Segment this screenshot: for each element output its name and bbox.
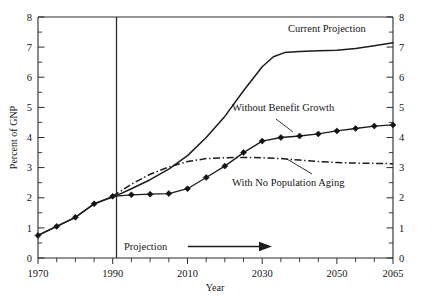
- chart-figure: 1970 1990 2010 2030 2050 2065 0 1 2 3 4 …: [0, 0, 432, 303]
- y-tick-label-right: 7: [399, 42, 404, 53]
- y-axis-right-ticks: [387, 17, 394, 258]
- x-tick-label: 2030: [252, 268, 273, 279]
- y-tick-label: 2: [27, 192, 32, 203]
- y-tick-label-right: 6: [399, 72, 404, 83]
- y-tick-label: 6: [27, 72, 32, 83]
- y-tick-label: 7: [27, 42, 32, 53]
- y-tick-label-right: 5: [399, 102, 404, 113]
- y-axis-right-tick-labels: 0 1 2 3 4 5 6 7 8: [399, 12, 405, 264]
- series-label-without-benefit-growth: Without Benefit Growth: [232, 102, 335, 113]
- y-tick-label: 8: [27, 12, 32, 23]
- x-tick-label: 2050: [326, 268, 347, 279]
- y-tick-label: 1: [27, 223, 32, 234]
- y-tick-label-right: 4: [399, 132, 405, 143]
- y-tick-label-right: 8: [399, 12, 404, 23]
- chart-svg: 1970 1990 2010 2030 2050 2065 0 1 2 3 4 …: [0, 0, 432, 303]
- plot-border: [38, 17, 393, 258]
- series-label-with-no-population-aging: With No Population Aging: [232, 177, 345, 188]
- x-tick-label: 2010: [177, 268, 198, 279]
- y-tick-label: 3: [27, 162, 32, 173]
- y-axis-left-ticks: [38, 17, 45, 258]
- x-axis-ticks: [38, 258, 393, 264]
- y-axis-left-tick-labels: 0 1 2 3 4 5 6 7 8: [27, 12, 33, 264]
- axes-frame: [38, 17, 393, 258]
- y-tick-label: 0: [27, 253, 32, 264]
- y-tick-label-right: 2: [399, 192, 404, 203]
- projection-arrow: [188, 242, 272, 251]
- x-tick-label: 1970: [28, 268, 49, 279]
- y-tick-label-right: 3: [399, 162, 404, 173]
- series-label-current-projection: Current Projection: [288, 23, 367, 34]
- projection-annotation-label: Projection: [124, 241, 168, 252]
- x-axis-tick-labels: 1970 1990 2010 2030 2050 2065: [28, 268, 404, 279]
- x-tick-label: 1990: [102, 268, 123, 279]
- y-axis-title: Percent of GNP: [8, 105, 19, 169]
- y-tick-label: 4: [27, 132, 33, 143]
- y-tick-label: 5: [27, 102, 32, 113]
- y-tick-label-right: 1: [399, 223, 404, 234]
- x-axis-title: Year: [206, 282, 225, 293]
- y-tick-label-right: 0: [399, 253, 404, 264]
- x-tick-label: 2065: [383, 268, 404, 279]
- leader-line-without-benefit-growth: [276, 119, 293, 132]
